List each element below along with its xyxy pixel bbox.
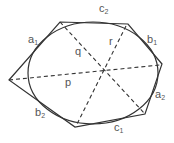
diagonal-r: [76, 26, 126, 126]
label-c1: c1: [114, 122, 123, 134]
label-a1-sub: 1: [34, 39, 38, 46]
label-a2-sub: 2: [161, 94, 165, 101]
label-q-base: q: [75, 45, 81, 57]
label-p-base: p: [65, 76, 71, 88]
inscribed-ellipse: [28, 22, 158, 124]
label-c2-sub: 2: [105, 8, 109, 15]
label-b1-sub: 1: [153, 39, 157, 46]
label-b2-sub: 2: [41, 112, 45, 119]
label-r-base: r: [109, 35, 113, 47]
label-b1: b1: [147, 34, 157, 46]
diagram-canvas: [0, 0, 174, 143]
label-r: r: [109, 36, 113, 47]
diagonal-p: [9, 65, 160, 80]
label-c2: c2: [99, 3, 108, 15]
label-c1-sub: 1: [120, 127, 124, 134]
diagonal-q: [60, 22, 145, 114]
label-b2: b2: [35, 107, 45, 119]
label-p: p: [65, 77, 71, 88]
label-a1: a1: [28, 34, 38, 46]
label-a2: a2: [155, 89, 165, 101]
label-q: q: [75, 46, 81, 57]
